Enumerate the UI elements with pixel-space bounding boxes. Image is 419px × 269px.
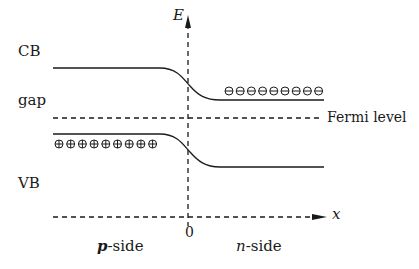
- electron-minus-icon: [236, 87, 244, 95]
- energy-axis-label: E: [173, 8, 184, 23]
- n-side-suffix: -side: [246, 237, 282, 255]
- hole-plus-icon: [78, 140, 86, 148]
- energy-axis-arrow-icon: [185, 15, 191, 28]
- hole-plus-icon: [90, 140, 98, 148]
- band-diagram: [0, 0, 419, 269]
- n-side-letter: n: [236, 237, 246, 255]
- origin-label: 0: [185, 225, 194, 239]
- hole-plus-icon: [125, 140, 133, 148]
- p-side-letter: p: [97, 237, 108, 255]
- electron-minus-icon: [281, 87, 289, 95]
- x-axis-arrow-icon: [312, 214, 327, 220]
- electron-minus-icon: [270, 87, 278, 95]
- conduction-band-label: CB: [18, 44, 41, 59]
- fermi-level-label: Fermi level: [327, 110, 407, 124]
- electron-minus-icon: [315, 87, 323, 95]
- electron-minus-icon: [247, 87, 255, 95]
- hole-plus-icon: [102, 140, 110, 148]
- x-axis-label: x: [332, 207, 340, 222]
- gap-label: gap: [18, 93, 46, 108]
- hole-carriers: [55, 140, 157, 148]
- p-side-suffix: -side: [108, 237, 144, 255]
- electron-minus-icon: [225, 87, 233, 95]
- hole-plus-icon: [137, 140, 145, 148]
- electron-carriers: [225, 87, 323, 95]
- p-side-label: p-side: [97, 239, 144, 254]
- n-side-label: n-side: [236, 239, 282, 254]
- hole-plus-icon: [149, 140, 157, 148]
- electron-minus-icon: [292, 87, 300, 95]
- hole-plus-icon: [55, 140, 63, 148]
- electron-minus-icon: [303, 87, 311, 95]
- hole-plus-icon: [114, 140, 122, 148]
- electron-minus-icon: [259, 87, 267, 95]
- hole-plus-icon: [67, 140, 75, 148]
- valence-band-label: VB: [18, 176, 40, 191]
